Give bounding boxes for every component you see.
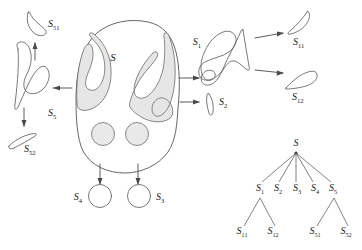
part-s11-shape (288, 11, 309, 34)
tree-node-s12-label: S12 (267, 225, 278, 238)
tree-edge-root-s2 (279, 153, 296, 182)
part-s52-label: S52 (24, 143, 36, 156)
part-s5-label: S5 (48, 107, 57, 120)
tree-edge-root-s4 (296, 153, 313, 182)
tree-node-s5-label: S5 (329, 182, 337, 195)
tree-edge-s5-s52 (334, 198, 348, 226)
part-s12-shape (285, 71, 317, 89)
main-shape-hole-left (92, 123, 115, 146)
part-s11-label: S11 (293, 36, 304, 49)
tree-node-s4-label: S4 (311, 182, 319, 195)
arrow-to-s1 (179, 75, 200, 80)
part-s51-label: S51 (48, 18, 60, 31)
part-s12-group: S12 (285, 71, 317, 103)
tree-edge-root-s5 (296, 153, 331, 182)
part-s3-group: S3 (128, 185, 166, 208)
part-s52-shape (9, 134, 37, 149)
hierarchy-tree: S S1 S2 S3 S4 S5 S11 S12 S51 S52 (237, 137, 352, 238)
tree-node-root-label: S (294, 137, 299, 148)
part-s5-shape (15, 42, 49, 110)
part-s12-label: S12 (292, 91, 304, 104)
arrow-s5-to-s52 (22, 108, 27, 127)
part-s5-group: S5 (15, 42, 57, 120)
part-s3-shape (128, 185, 151, 208)
part-s1-label: S1 (193, 36, 201, 49)
part-s2-shape (207, 93, 214, 115)
part-s3-label: S3 (156, 191, 165, 204)
tree-edge-root-s1 (262, 153, 296, 182)
part-s2-label: S2 (219, 96, 227, 109)
part-s2-group: S2 (207, 93, 228, 115)
main-shape-group: S (76, 20, 179, 173)
arrow-to-s5 (53, 85, 72, 90)
part-s1-shape (199, 29, 250, 85)
part-s51-shape (27, 12, 46, 36)
main-shape-label: S (110, 51, 116, 63)
tree-edge-s1-s12 (260, 198, 275, 226)
part-s52-group: S52 (9, 134, 37, 156)
tree-edge-s5-s51 (317, 198, 334, 226)
figure-container: S (0, 0, 362, 250)
tree-node-s1-label: S1 (256, 182, 264, 195)
arrow-to-s2 (180, 99, 200, 104)
main-shape-hole-right (126, 123, 149, 146)
part-s51-group: S51 (27, 12, 59, 36)
tree-node-s3-label: S3 (293, 182, 301, 195)
tree-node-s2-label: S2 (274, 182, 282, 195)
arrow-s1-to-s11 (255, 31, 284, 38)
decomposition-diagram: S (0, 0, 362, 250)
arrow-s5-to-s51 (33, 42, 38, 60)
part-s4-group: S4 (74, 185, 112, 208)
tree-edge-s1-s11 (244, 198, 260, 226)
part-s4-label: S4 (74, 191, 83, 204)
arrow-s1-to-s12 (255, 70, 284, 76)
tree-node-s11-label: S11 (237, 225, 248, 238)
part-s4-shape (89, 185, 112, 208)
tree-node-s52-label: S52 (340, 225, 351, 238)
part-s11-group: S11 (288, 11, 309, 48)
tree-node-s51-label: S51 (309, 225, 320, 238)
part-s1-group: S1 (193, 29, 250, 85)
